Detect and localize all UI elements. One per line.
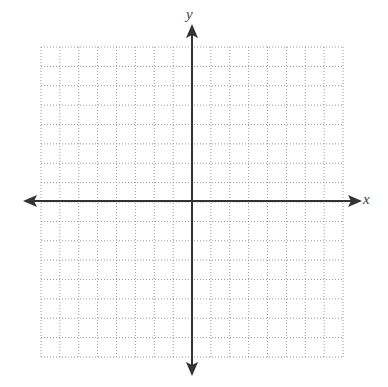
y-axis-label: y [186,6,193,23]
x-axis-label: x [363,191,370,208]
grid-svg [0,0,388,387]
